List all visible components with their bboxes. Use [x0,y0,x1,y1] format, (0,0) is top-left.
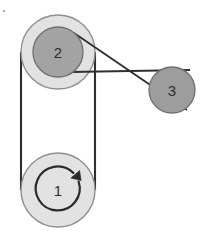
pulley-1[interactable]: 1 [21,153,95,227]
diagram-canvas: 1 3 2 [0,0,209,241]
pulley-2-inner[interactable]: 2 [33,27,83,77]
pulley-system-diagram: 1 3 2 [0,0,209,241]
pulley-2-label: 2 [54,44,62,61]
pulley-3[interactable]: 3 [149,67,195,113]
pulley-3-label: 3 [168,82,176,99]
pulley-1-label: 1 [54,182,62,199]
